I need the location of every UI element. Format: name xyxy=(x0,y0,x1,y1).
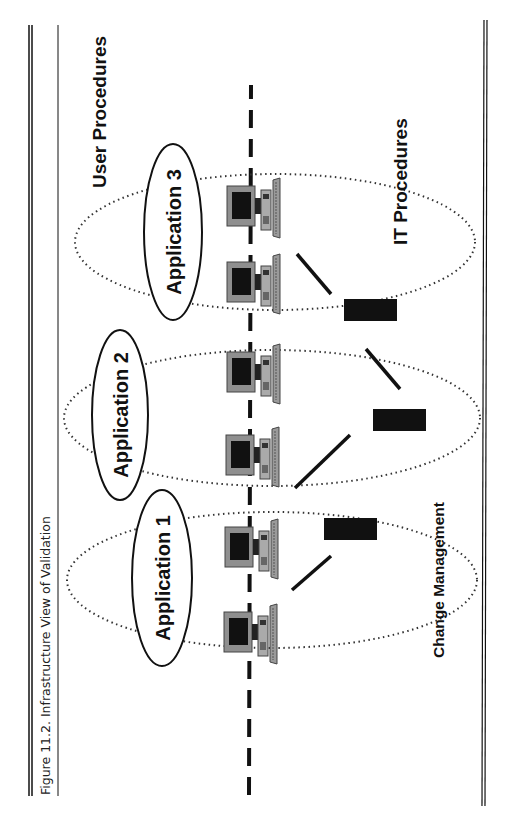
servers xyxy=(324,299,426,540)
right-border xyxy=(482,20,487,806)
diagram-canvas: Figure 11.2. Infrastructure View of Vali… xyxy=(0,0,514,818)
user-procedures-label: User Procedures xyxy=(89,36,110,188)
figure-caption: Figure 11.2. Infrastructure View of Vali… xyxy=(38,516,53,795)
svg-text:Application 1: Application 1 xyxy=(152,515,174,641)
svg-text:Application 3: Application 3 xyxy=(163,169,185,295)
computer-icon xyxy=(226,427,279,487)
server-icon xyxy=(344,299,397,321)
svg-text:Application 2: Application 2 xyxy=(110,352,132,478)
application-3-oval: Application 3 xyxy=(144,144,202,320)
application-1-oval: Application 1 xyxy=(132,490,192,666)
server-icon xyxy=(373,409,426,431)
computer-icon xyxy=(224,604,277,664)
application-2-oval: Application 2 xyxy=(92,330,148,500)
it-procedures-label: IT Procedures xyxy=(390,118,411,245)
computer-icon xyxy=(225,519,278,579)
change-management-label: Change Management xyxy=(430,502,447,658)
workstations xyxy=(224,178,280,664)
computer-icon xyxy=(227,178,280,238)
computer-icon xyxy=(227,254,280,314)
computer-icon xyxy=(227,344,280,404)
server-icon xyxy=(324,518,377,540)
